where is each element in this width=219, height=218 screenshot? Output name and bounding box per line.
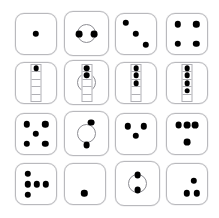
strip-pip	[184, 73, 190, 79]
strip-segment	[32, 65, 41, 73]
dice-pip	[134, 172, 141, 179]
dice-cell[interactable]	[64, 11, 109, 56]
dice-column-strip[interactable]	[31, 64, 42, 103]
dice-pip	[184, 139, 191, 146]
dice-cell[interactable]	[166, 163, 208, 205]
dice-pip	[192, 121, 199, 128]
strip-pip	[184, 88, 190, 94]
strip-pip	[84, 73, 90, 79]
dice-cell[interactable]	[115, 161, 160, 206]
strip-segment	[32, 72, 41, 80]
dice-grid	[0, 0, 219, 218]
strip-segment	[82, 95, 91, 102]
dice-column-strip[interactable]	[81, 64, 92, 103]
dice-pip	[134, 187, 141, 194]
dice-tile	[64, 163, 106, 205]
strip-pip	[133, 80, 139, 86]
dice-cell[interactable]	[115, 62, 157, 104]
dice-tile	[166, 113, 208, 155]
strip-segment	[132, 95, 141, 102]
strip-segment	[82, 72, 91, 80]
dice-cell[interactable]	[15, 13, 57, 55]
strip-segment	[32, 87, 41, 95]
strip-segment	[183, 87, 192, 95]
dice-column-strip[interactable]	[182, 64, 193, 103]
dice-cell[interactable]	[15, 113, 57, 155]
dice-cell[interactable]	[166, 13, 208, 55]
dice-cell[interactable]	[64, 111, 109, 156]
strip-pip	[84, 65, 90, 71]
dice-pip	[91, 31, 98, 38]
dice-cell[interactable]	[115, 113, 157, 155]
dice-cell[interactable]	[15, 62, 57, 104]
dice-cell[interactable]	[15, 163, 57, 205]
strip-pip	[184, 65, 190, 71]
strip-segment	[132, 80, 141, 88]
strip-segment	[132, 72, 141, 80]
dice-cell[interactable]	[166, 113, 208, 155]
strip-pip	[133, 65, 139, 71]
dice-pip	[184, 121, 191, 128]
strip-segment	[82, 87, 91, 95]
strip-pip	[184, 80, 190, 86]
dice-pip	[75, 31, 82, 38]
strip-segment	[183, 80, 192, 88]
strip-segment	[183, 65, 192, 73]
dice-column-strip[interactable]	[131, 64, 142, 103]
strip-segment	[82, 80, 91, 88]
dice-pip	[88, 119, 95, 126]
strip-pip	[133, 73, 139, 79]
dice-pip	[175, 121, 182, 128]
strip-segment	[32, 95, 41, 102]
strip-segment	[32, 80, 41, 88]
strip-pip	[33, 65, 39, 71]
dice-cell[interactable]	[64, 60, 109, 105]
strip-segment	[132, 87, 141, 95]
dice-cell[interactable]	[115, 13, 157, 55]
dice-cell[interactable]	[64, 163, 106, 205]
strip-segment	[183, 72, 192, 80]
strip-segment	[132, 65, 141, 73]
dice-tile	[166, 163, 208, 205]
dice-pip	[83, 142, 90, 149]
strip-segment	[82, 65, 91, 73]
dice-cell[interactable]	[166, 62, 208, 104]
strip-segment	[183, 95, 192, 102]
dice-tile	[166, 13, 208, 55]
